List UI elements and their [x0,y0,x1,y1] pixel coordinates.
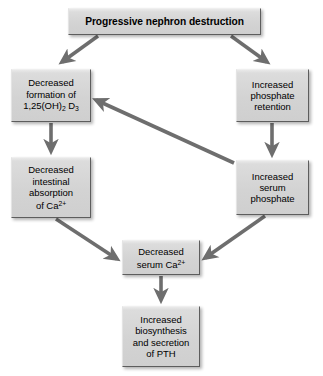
flowchart-diagram: Progressive nephron destruction Decrease… [0,0,323,376]
node-progressive-nephron-destruction: Progressive nephron destruction [68,8,261,35]
node-label: Decreasedintestinalabsorptionof Ca2+ [26,164,76,210]
arrow-destruction-to-vitamind [62,36,98,62]
node-label: Decreasedformation of1,25(OH)2 D3 [21,77,81,113]
node-decreased-vitamin-d: Decreasedformation of1,25(OH)2 D3 [11,69,91,122]
node-decreased-intestinal-absorption: Decreasedintestinalabsorptionof Ca2+ [11,157,91,218]
node-label: Decreasedserum Ca2+ [135,246,187,270]
node-label: Increasedphosphateretention [249,79,297,113]
arrow-serum-phosphate-to-vitamind [96,100,234,163]
node-label: Increasedserumphosphate [249,171,297,205]
node-increased-phosphate-retention: Increasedphosphateretention [236,69,309,122]
node-increased-pth: Increasedbiosynthesisand secretionof PTH [122,306,200,367]
arrow-intestinal-to-serum-calcium [56,219,117,259]
arrow-destruction-to-phosphate-retention [231,36,267,62]
arrow-serum-phosphate-to-serum-calcium [205,216,265,258]
node-increased-serum-phosphate: Increasedserumphosphate [236,160,309,215]
node-label: Progressive nephron destruction [83,16,246,27]
node-label: Increasedbiosynthesisand secretionof PTH [131,314,191,359]
node-decreased-serum-calcium: Decreasedserum Ca2+ [122,240,200,275]
